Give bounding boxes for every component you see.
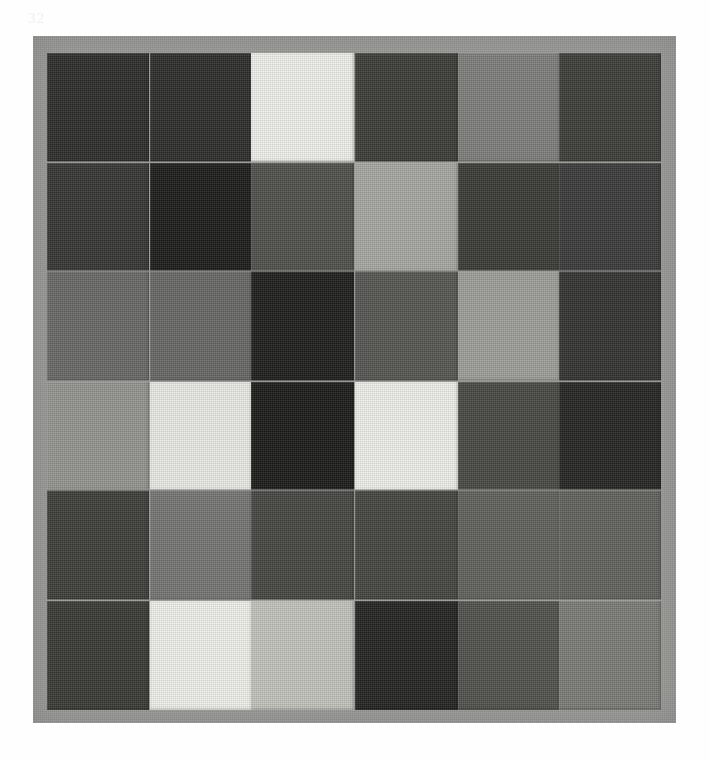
swatch-r5-c3 xyxy=(251,490,354,600)
swatch-r1-c1 xyxy=(47,53,149,162)
swatch-r6-c6 xyxy=(559,601,661,711)
swatch-r3-c4 xyxy=(355,271,458,381)
swatch-r5-c5 xyxy=(458,490,561,600)
swatch-r6-c2 xyxy=(150,601,253,711)
swatch-r1-c2 xyxy=(150,53,253,162)
swatch-r5-c6 xyxy=(559,490,661,600)
swatch-r6-c4 xyxy=(355,601,458,711)
swatch-r2-c6 xyxy=(559,163,661,273)
swatch-r4-c1 xyxy=(47,382,149,492)
swatch-r3-c6 xyxy=(559,271,661,381)
swatch-r3-c5 xyxy=(458,271,561,381)
swatch-r6-c5 xyxy=(458,601,561,711)
margin-pencil-mark: 32 xyxy=(28,8,54,28)
page-root: 32 xyxy=(0,0,710,760)
swatch-r4-c5 xyxy=(458,382,561,492)
swatch-r1-c6 xyxy=(559,53,661,162)
artwork-photograph xyxy=(33,36,676,723)
swatch-r5-c1 xyxy=(47,490,149,600)
swatch-r1-c3 xyxy=(251,53,354,162)
swatch-r4-c6 xyxy=(559,382,661,492)
swatch-r2-c3 xyxy=(251,163,354,273)
swatch-r2-c1 xyxy=(47,163,149,273)
swatch-r1-c5 xyxy=(458,53,561,162)
swatch-r4-c3 xyxy=(251,382,354,492)
swatch-grid xyxy=(46,52,662,709)
swatch-r3-c3 xyxy=(251,271,354,381)
swatch-r4-c4 xyxy=(355,382,458,492)
swatch-r2-c4 xyxy=(355,163,458,273)
swatch-r2-c5 xyxy=(458,163,561,273)
swatch-r3-c1 xyxy=(47,271,149,381)
swatch-r4-c2 xyxy=(150,382,253,492)
swatch-r5-c4 xyxy=(355,490,458,600)
swatch-r2-c2 xyxy=(150,163,253,273)
swatch-r6-c3 xyxy=(251,601,354,711)
swatch-r3-c2 xyxy=(150,271,253,381)
swatch-r5-c2 xyxy=(150,490,253,600)
swatch-r1-c4 xyxy=(355,53,458,162)
swatch-r6-c1 xyxy=(47,601,149,711)
